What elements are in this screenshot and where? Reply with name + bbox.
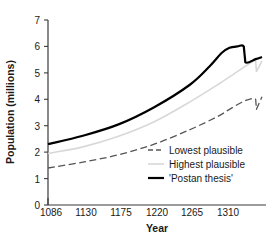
series-line-postan-thesis xyxy=(48,45,262,144)
x-tick-label: 1130 xyxy=(75,207,97,218)
y-tick-label: 7 xyxy=(34,15,40,26)
x-tick-label: 1310 xyxy=(217,207,240,218)
x-tick-label: 1086 xyxy=(40,207,63,218)
x-axis-tick-labels: 1086 1130 1175 1220 1265 1310 xyxy=(40,207,240,218)
legend-label-postan-thesis: 'Postan thesis' xyxy=(169,173,233,184)
y-axis-tick-labels: 7 6 5 4 3 2 1 0 xyxy=(34,15,40,211)
y-tick-label: 5 xyxy=(34,68,40,79)
chart-legend: Lowest plausible Highest plausible 'Post… xyxy=(148,145,246,184)
legend-label-lowest-plausible: Lowest plausible xyxy=(169,145,243,156)
y-axis-title: Population (millions) xyxy=(4,60,16,164)
x-axis-title: Year xyxy=(146,222,168,234)
y-tick-label: 1 xyxy=(34,174,40,185)
y-tick-label: 4 xyxy=(34,94,40,105)
chart-canvas: 7 6 5 4 3 2 1 0 1086 1130 1175 1220 1265… xyxy=(0,0,275,248)
y-tick-label: 6 xyxy=(34,41,40,52)
legend-label-highest-plausible: Highest plausible xyxy=(169,159,246,170)
x-tick-label: 1265 xyxy=(181,207,204,218)
population-line-chart: 7 6 5 4 3 2 1 0 1086 1130 1175 1220 1265… xyxy=(0,0,275,248)
x-tick-label: 1220 xyxy=(146,207,169,218)
y-tick-label: 3 xyxy=(34,121,40,132)
x-tick-label: 1175 xyxy=(110,207,132,218)
y-tick-label: 2 xyxy=(34,147,40,158)
